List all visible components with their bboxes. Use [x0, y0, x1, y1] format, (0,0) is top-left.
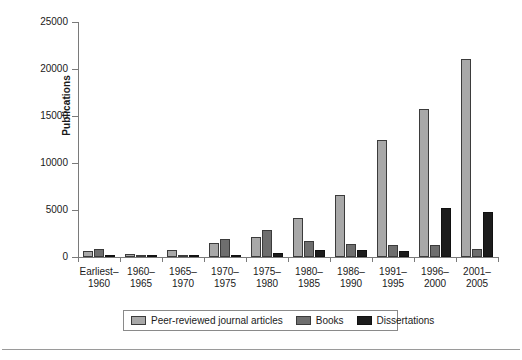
bar: [293, 218, 303, 257]
legend-swatch: [357, 316, 372, 325]
y-axis-tick-label: 20000: [40, 63, 68, 75]
bar: [430, 245, 440, 257]
bar: [315, 250, 325, 257]
y-axis-tick: 20000: [0, 63, 78, 75]
bar: [147, 255, 157, 257]
bar: [231, 255, 241, 257]
chart-legend: Peer-reviewed journal articlesBooksDisse…: [123, 310, 398, 331]
bar: [377, 140, 387, 257]
x-axis-tick-label-line: 2001–: [450, 266, 504, 278]
bar: [83, 251, 93, 257]
bar: [136, 255, 146, 257]
bar: [262, 230, 272, 257]
x-axis-tick-label: 2001–2005: [450, 266, 504, 290]
x-axis-tick-mark: [120, 257, 121, 262]
legend-label: Peer-reviewed journal articles: [151, 315, 283, 326]
bar: [251, 237, 261, 257]
bar: [178, 255, 188, 257]
y-axis-tick-label: 15000: [40, 110, 68, 122]
y-axis-title: Publications: [61, 36, 72, 176]
page-divider: [2, 349, 520, 350]
bar: [419, 109, 429, 257]
y-axis-tick: 5000: [0, 204, 78, 216]
y-axis-tick: 10000: [0, 157, 78, 169]
x-axis-tick-mark: [204, 257, 205, 262]
bar: [483, 212, 493, 257]
bar: [273, 253, 283, 257]
bar: [94, 249, 104, 257]
bar: [357, 250, 367, 257]
y-axis-tick: 25000: [0, 16, 78, 28]
y-axis-tick: 0: [0, 251, 78, 263]
bar: [125, 254, 135, 257]
legend-item: Dissertations: [357, 315, 435, 326]
legend-item: Peer-reviewed journal articles: [131, 315, 283, 326]
x-axis-tick-mark: [288, 257, 289, 262]
bar: [461, 59, 471, 257]
x-axis-tick-mark: [162, 257, 163, 262]
bar: [335, 195, 345, 257]
y-axis-tick-label: 25000: [40, 16, 68, 28]
x-axis-tick-mark: [246, 257, 247, 262]
bar: [304, 241, 314, 257]
bar: [472, 249, 482, 257]
y-axis-tick-label: 5000: [46, 204, 68, 216]
x-axis-tick-mark: [414, 257, 415, 262]
bar: [388, 245, 398, 257]
x-axis-tick-mark: [456, 257, 457, 262]
y-axis-tick: 15000: [0, 110, 78, 122]
legend-swatch: [296, 316, 311, 325]
bar: [167, 250, 177, 257]
legend-swatch: [131, 316, 146, 325]
x-axis-tick-mark: [78, 257, 79, 262]
bar: [220, 239, 230, 257]
x-axis-tick-mark: [372, 257, 373, 262]
bar: [399, 251, 409, 257]
legend-label: Books: [316, 315, 344, 326]
x-axis-tick-mark: [498, 257, 499, 262]
y-axis-tick-label: 0: [62, 251, 68, 263]
bar: [209, 243, 219, 257]
y-axis-tick-label: 10000: [40, 157, 68, 169]
plot-area: [78, 22, 498, 257]
x-axis-tick-label-line: 2005: [450, 278, 504, 290]
x-axis-tick-mark: [330, 257, 331, 262]
legend-item: Books: [296, 315, 344, 326]
bar: [346, 244, 356, 257]
publications-bar-chart: Publications 0500010000150002000025000 E…: [0, 0, 522, 360]
bar: [189, 255, 199, 257]
bar: [441, 208, 451, 257]
legend-label: Dissertations: [377, 315, 435, 326]
bar: [105, 255, 115, 257]
